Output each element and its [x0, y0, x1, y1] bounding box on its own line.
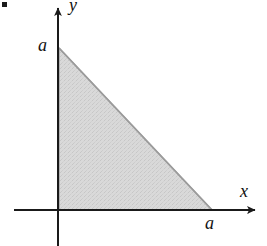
x-intercept-label-a: a — [205, 214, 214, 232]
y-axis-name-label: y — [69, 0, 77, 14]
x-axis-name-label: x — [240, 182, 248, 200]
triangle-region-figure: y x a a — [0, 0, 267, 246]
y-intercept-label-a: a — [38, 36, 47, 54]
